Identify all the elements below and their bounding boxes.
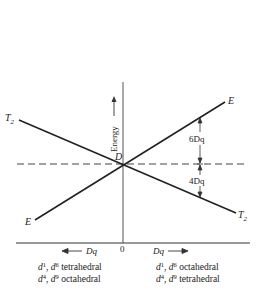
- splitting-4dq-label: 4Dq: [189, 176, 205, 186]
- left-caption-line-1: d1, d6 tetrahedral: [38, 261, 102, 273]
- right-dq-arrow: [168, 249, 188, 254]
- energy-label-text: Energy: [109, 126, 119, 152]
- left-caption-line-2: d4, d9 octahedral: [38, 273, 102, 285]
- crystal-field-splitting-diagram: Energy D T2 E E T2 6Dq 4Dq 0 Dq Dq: [0, 0, 260, 298]
- right-caption-line-1: d1, d6 octahedral: [156, 261, 220, 273]
- right-caption: d1, d6 octahedral d4, d9 tetrahedral: [156, 261, 220, 285]
- left-caption: d1, d6 tetrahedral d4, d9 octahedral: [38, 261, 102, 285]
- energy-axis-label: Energy: [109, 96, 119, 152]
- origin-label: 0: [120, 244, 125, 254]
- left-dq-label: Dq: [85, 246, 97, 256]
- e-left-label: E: [24, 216, 31, 227]
- left-dq-arrow: [62, 249, 82, 254]
- e-level-line: [35, 102, 225, 220]
- right-dq-label: Dq: [152, 246, 164, 256]
- t2-left-label: T2: [5, 112, 15, 126]
- splitting-6dq-label: 6Dq: [189, 134, 205, 144]
- e-right-label: E: [227, 95, 234, 106]
- free-ion-term-label: D: [114, 151, 123, 162]
- t2-right-label: T2: [238, 209, 248, 223]
- right-caption-line-2: d4, d9 tetrahedral: [156, 273, 220, 285]
